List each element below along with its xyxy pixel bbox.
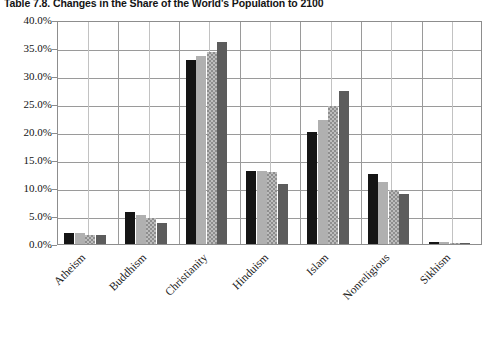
y-axis-tick-label: 20.0% (0, 127, 52, 138)
bar-group (119, 22, 180, 244)
x-axis-tick-label: Islam (304, 251, 331, 278)
bar-group (362, 22, 423, 244)
bar (378, 182, 388, 244)
y-axis-tick-label: 35.0% (0, 43, 52, 54)
bar (186, 60, 196, 244)
y-axis-tick-label: 10.0% (0, 183, 52, 194)
x-axis-tick-label: Christianity (162, 251, 209, 298)
bar (460, 243, 470, 244)
bar (146, 218, 156, 244)
y-axis-tick-label: 5.0% (0, 211, 52, 222)
bar (85, 235, 95, 244)
bar (136, 215, 146, 244)
bar (64, 233, 74, 244)
bar (196, 56, 206, 244)
bar (328, 106, 338, 244)
bar-group (301, 22, 362, 244)
bar (207, 52, 217, 244)
bar (157, 223, 167, 244)
x-axis-tick-label: Buddhism (107, 251, 149, 293)
y-axis-tick-label: 0.0% (0, 239, 52, 250)
bar-group (58, 22, 119, 244)
plot-area (57, 21, 482, 245)
bar (217, 42, 227, 244)
bar (368, 174, 378, 244)
y-axis-tick-label: 40.0% (0, 15, 52, 26)
bar (339, 91, 349, 244)
bar (429, 242, 439, 244)
y-axis-tick-label: 25.0% (0, 99, 52, 110)
x-axis-tick-label: Atheism (52, 251, 88, 287)
bar (257, 171, 267, 244)
bar (246, 171, 256, 244)
bar (399, 194, 409, 244)
bar-chart: 0.0%5.0%10.0%15.0%20.0%25.0%30.0%35.0%40… (0, 0, 489, 342)
bar-group (240, 22, 301, 244)
bar (389, 190, 399, 244)
bar (96, 235, 106, 244)
bar-group (422, 22, 483, 244)
bar (439, 242, 449, 244)
x-axis: AtheismBuddhismChristianityHinduismIslam… (57, 245, 482, 342)
bar (75, 233, 85, 244)
bar (307, 132, 317, 244)
bar (125, 212, 135, 244)
y-axis-tick-label: 30.0% (0, 71, 52, 82)
bar-group (179, 22, 240, 244)
bar (450, 243, 460, 244)
bar (267, 172, 277, 244)
x-axis-tick-label: Sikhism (417, 251, 452, 286)
x-axis-tick-label: Nonreligious (340, 251, 391, 302)
y-axis-tick-label: 15.0% (0, 155, 52, 166)
bar (278, 184, 288, 244)
x-axis-tick-label: Hinduism (229, 251, 270, 292)
bar (318, 120, 328, 244)
